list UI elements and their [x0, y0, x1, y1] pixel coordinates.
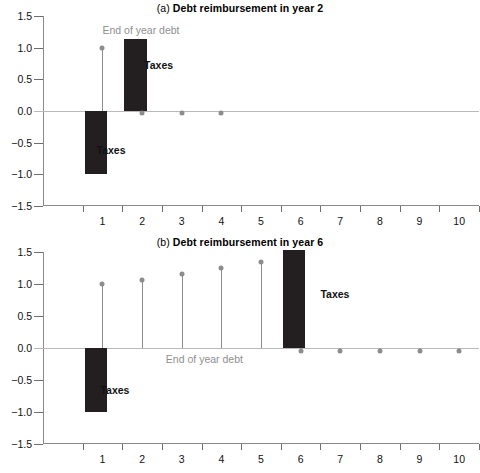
x-tick-label: 5	[258, 215, 264, 227]
annotation-end-of-year-debt: End of year debt	[166, 353, 243, 365]
y-tick-label: −0.5	[11, 137, 32, 149]
stem-line-end-of-year-debt	[221, 268, 222, 348]
y-tick-neg1.0	[34, 412, 43, 413]
panel-b-title: (b) Debt reimbursement in year 6	[0, 236, 480, 248]
x-tick	[83, 206, 84, 212]
x-tick-label: 4	[218, 215, 224, 227]
stem-marker-end-of-year-debt	[377, 349, 382, 354]
x-tick	[83, 444, 84, 450]
y-tick-label: −1.0	[11, 168, 32, 180]
panel-a-tag: (a)	[157, 2, 170, 14]
stem-marker-end-of-year-debt	[179, 271, 184, 276]
zero-line	[43, 348, 479, 349]
bar-taxes-year-2	[124, 39, 147, 111]
stem-marker-end-of-year-debt	[259, 259, 264, 264]
x-tick	[241, 444, 242, 450]
x-tick-label: 4	[218, 453, 224, 465]
x-tick	[281, 206, 282, 212]
y-tick-label: 1.5	[17, 246, 32, 258]
annotation-taxes: Taxes	[144, 59, 173, 71]
x-tick-label: 8	[377, 453, 383, 465]
x-tick-label: 6	[298, 215, 304, 227]
y-tick-0.5	[34, 316, 43, 317]
annotation-taxes: Taxes	[100, 384, 129, 396]
x-tick-label: 2	[139, 215, 145, 227]
plot-area-a: 1.51.00.50.0−0.5−1.0−1.512345678910End o…	[43, 16, 479, 206]
stem-marker-end-of-year-debt	[417, 349, 422, 354]
annotation-end-of-year-debt: End of year debt	[102, 24, 179, 36]
stem-line-end-of-year-debt	[261, 262, 262, 348]
x-tick	[122, 206, 123, 212]
x-tick	[162, 206, 163, 212]
figure-debt-reimbursement: (a) Debt reimbursement in year 2 1.51.00…	[0, 0, 480, 473]
x-tick	[281, 444, 282, 450]
x-tick-label: 7	[337, 453, 343, 465]
y-tick-neg0.5	[34, 380, 43, 381]
x-tick-label: 1	[100, 215, 106, 227]
bar-taxes-year-6	[283, 250, 306, 348]
x-tick-label: 3	[179, 453, 185, 465]
panel-a-title: (a) Debt reimbursement in year 2	[0, 2, 480, 14]
y-tick-label: 0.0	[17, 105, 32, 117]
stem-line-end-of-year-debt	[102, 284, 103, 348]
annotation-taxes: Taxes	[320, 288, 349, 300]
y-tick-neg1.5	[34, 444, 43, 445]
y-tick-label: −0.5	[11, 374, 32, 386]
stem-marker-end-of-year-debt	[140, 110, 145, 115]
x-tick-label: 8	[377, 215, 383, 227]
x-tick	[360, 444, 361, 450]
bar-taxes-year-1	[85, 111, 108, 174]
x-tick-label: 2	[139, 453, 145, 465]
x-tick	[439, 206, 440, 212]
y-tick-neg1.0	[34, 174, 43, 175]
x-tick	[320, 206, 321, 212]
stem-marker-end-of-year-debt	[179, 110, 184, 115]
x-tick	[400, 206, 401, 212]
x-tick-label: 6	[298, 453, 304, 465]
panel-b-title-text: Debt reimbursement in year 6	[173, 236, 323, 248]
zero-line	[43, 111, 479, 112]
y-tick-label: 1.0	[17, 42, 32, 54]
x-tick	[241, 206, 242, 212]
x-tick-label: 10	[453, 215, 465, 227]
x-axis-b	[43, 443, 479, 444]
x-tick	[320, 444, 321, 450]
stem-line-end-of-year-debt	[102, 48, 103, 111]
stem-marker-end-of-year-debt	[140, 277, 145, 282]
y-tick-label: 1.0	[17, 278, 32, 290]
stem-marker-end-of-year-debt	[298, 349, 303, 354]
x-tick	[439, 444, 440, 450]
plot-area-b: 1.51.00.50.0−0.5−1.0−1.512345678910End o…	[43, 252, 479, 444]
y-tick-label: 0.5	[17, 310, 32, 322]
stem-marker-end-of-year-debt	[219, 266, 224, 271]
x-tick-label: 1	[100, 453, 106, 465]
x-tick	[400, 444, 401, 450]
y-tick-1.5	[34, 252, 43, 253]
bar-taxes-year-1	[85, 348, 108, 412]
x-tick-label: 9	[417, 215, 423, 227]
y-tick-0.5	[34, 79, 43, 80]
panel-a-title-text: Debt reimbursement in year 2	[173, 2, 323, 14]
x-tick	[202, 444, 203, 450]
y-tick-0.0	[34, 348, 43, 349]
y-tick-label: 0.0	[17, 342, 32, 354]
annotation-taxes: Taxes	[97, 144, 126, 156]
x-axis-a	[43, 205, 479, 206]
x-tick-label: 10	[453, 453, 465, 465]
stem-line-end-of-year-debt	[182, 274, 183, 348]
x-tick	[122, 444, 123, 450]
stem-marker-end-of-year-debt	[100, 282, 105, 287]
x-tick	[162, 444, 163, 450]
stem-marker-end-of-year-debt	[100, 45, 105, 50]
x-tick-label: 5	[258, 453, 264, 465]
panel-b-tag: (b)	[157, 236, 170, 248]
y-tick-neg0.5	[34, 143, 43, 144]
x-tick-label: 9	[417, 453, 423, 465]
y-tick-label: 1.5	[17, 10, 32, 22]
y-tick-1.5	[34, 16, 43, 17]
x-tick-label: 3	[179, 215, 185, 227]
stem-marker-end-of-year-debt	[457, 349, 462, 354]
y-tick-0.0	[34, 111, 43, 112]
y-tick-label: −1.0	[11, 406, 32, 418]
y-tick-label: −1.5	[11, 200, 32, 212]
